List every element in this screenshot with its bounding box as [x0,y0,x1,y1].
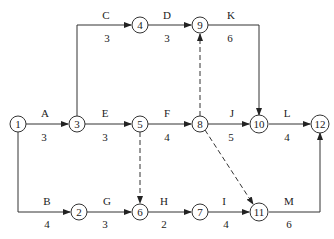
activity-duration-G: 3 [102,218,108,230]
activity-name-J: J [230,107,235,119]
node-label: 12 [315,118,326,130]
activity-name-K: K [227,9,235,21]
activity-duration-K: 6 [227,32,233,44]
node-label: 6 [137,206,143,218]
activity-duration-C: 3 [104,32,110,44]
node-label: 11 [254,206,265,218]
activity-duration-L: 4 [284,131,290,143]
activity-name-F: F [164,107,170,119]
activity-duration-D: 3 [164,32,170,44]
activity-name-C: C [102,9,109,21]
node-label: 9 [197,19,203,31]
activity-duration-F: 4 [164,131,170,143]
activity-name-H: H [160,195,168,207]
node-label: 10 [254,118,266,130]
activity-name-E: E [102,107,109,119]
activity-name-I: I [222,195,226,207]
activity-duration-B: 4 [44,218,50,230]
activity-name-G: G [103,195,111,207]
node-label: 8 [197,118,203,130]
activity-name-D: D [163,9,171,21]
activity-duration-I: 4 [223,218,229,230]
node-label: 1 [15,118,21,130]
activity-name-M: M [284,195,294,207]
network-diagram: 1 2 3 4 5 6 7 8 9 10 11 12 A B C D E F G… [0,0,334,239]
activity-duration-M: 6 [286,218,292,230]
arrow-M [269,133,320,212]
node-label: 3 [74,118,80,130]
arrow-K [208,25,259,115]
activity-name-L: L [284,107,291,119]
activity-duration-H: 2 [161,218,167,230]
node-label: 4 [137,19,143,31]
node-label: 5 [137,118,143,130]
node-label: 7 [197,206,203,218]
activity-duration-A: 3 [41,131,47,143]
activity-name-A: A [41,107,49,119]
activity-duration-J: 5 [228,131,234,143]
node-label: 2 [76,206,82,218]
activity-duration-E: 3 [102,131,108,143]
activity-name-B: B [43,195,50,207]
